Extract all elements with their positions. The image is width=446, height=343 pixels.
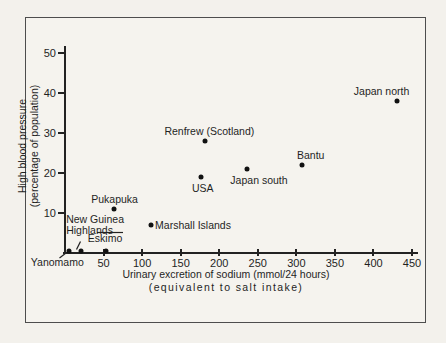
x-axis-title: Urinary excretion of sodium (mmol/24 hou… — [120, 268, 332, 294]
data-point-dot — [103, 249, 108, 254]
y-tick-mark — [58, 52, 66, 54]
x-tick-mark — [141, 249, 143, 256]
x-tick-mark — [334, 249, 336, 256]
x-tick-label: 400 — [364, 257, 382, 269]
data-point-label: Pukapuka — [91, 194, 138, 205]
x-axis-line — [63, 252, 418, 254]
data-point-dot — [111, 207, 116, 212]
x-tick-mark — [218, 249, 220, 256]
data-point-dot — [198, 175, 203, 180]
data-point-dot — [299, 163, 304, 168]
y-tick-mark — [58, 172, 66, 174]
data-point-dot — [148, 223, 153, 228]
x-tick-mark — [257, 249, 259, 256]
x-tick-mark — [372, 249, 374, 256]
data-point-dot — [79, 249, 84, 254]
data-point-label: Marshall Islands — [155, 220, 231, 231]
x-axis-title-line2: (equivalent to salt intake) — [120, 281, 332, 294]
data-point-label: Japan north — [354, 86, 409, 97]
x-tick-mark — [295, 249, 297, 256]
x-tick-mark — [411, 249, 413, 256]
data-point-dot — [66, 249, 71, 254]
data-point-dot — [244, 167, 249, 172]
data-point-label: Eskimo — [88, 233, 122, 244]
y-axis-title-line2: (percentage of population) — [28, 84, 40, 209]
y-tick-mark — [58, 92, 66, 94]
y-tick-mark — [58, 132, 66, 134]
y-tick-label: 50 — [30, 47, 56, 59]
data-point-dot — [203, 139, 208, 144]
x-tick-mark — [180, 249, 182, 256]
y-tick-label: 10 — [30, 207, 56, 219]
data-point-label: Yanomamo — [31, 257, 84, 268]
data-point-dot — [394, 99, 399, 104]
y-axis-title-line1: High blood pressure — [16, 84, 28, 209]
data-point-label: USA — [192, 183, 214, 194]
data-point-label: Japan south — [230, 175, 287, 186]
data-point-label: Renfrew (Scotland) — [164, 126, 254, 137]
y-axis-title: High blood pressure (percentage of popul… — [16, 84, 40, 209]
x-tick-label: 50 — [97, 257, 109, 269]
x-axis-title-line1: Urinary excretion of sodium (mmol/24 hou… — [120, 268, 332, 281]
x-tick-label: 450 — [403, 257, 421, 269]
y-tick-mark — [58, 212, 66, 214]
figure: 50100150200250300350400450 1020304050 Ya… — [0, 0, 446, 343]
data-point-label: Bantu — [297, 150, 324, 161]
